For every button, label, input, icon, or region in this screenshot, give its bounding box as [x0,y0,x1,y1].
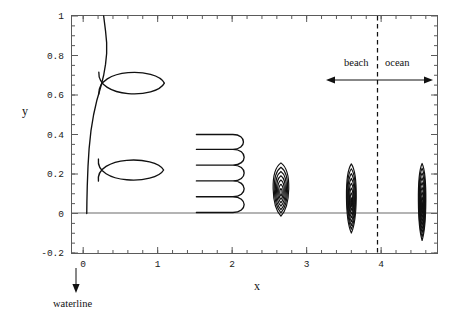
curve-nested-loops-2-ring [350,193,352,210]
y-axis-label: y [22,104,28,118]
beach-ocean-annotation: beach ocean [326,57,433,84]
ocean-arrow-head [424,76,433,83]
x-axis-label: x [254,279,260,293]
y-tick-label: 0.8 [47,51,64,62]
curve-waterline-asymptote [87,16,107,214]
y-tick-label: 1 [58,11,64,22]
beach-label: beach [344,57,369,68]
major-tick-marks [72,16,437,253]
curve-loop-upper [99,72,165,94]
x-tick-label: 0 [80,259,86,270]
x-tick-label: 3 [304,259,310,270]
x-tick-label: 4 [378,259,384,270]
x-tick-label: 2 [229,259,235,270]
figure-container: -0.200.20.40.60.81 01234 y x waterline b… [0,0,460,313]
data-curves [87,16,426,240]
y-tick-label: -0.2 [41,248,64,259]
y-tick-label: 0.2 [47,169,64,180]
x-tick-label: 1 [155,259,161,270]
curve-meander-cluster [196,135,244,213]
x-axis-tick-labels: 01234 [80,259,384,270]
waterline-annotation: waterline [53,268,92,309]
ocean-label: ocean [385,57,410,68]
plot-frame [72,16,438,254]
y-tick-label: 0 [58,209,64,220]
waterline-arrow-head [72,284,79,293]
minor-tick-marks [72,16,437,253]
waterline-label: waterline [53,298,92,309]
beach-arrow-head [326,76,335,83]
curve-nested-loops-1-ring [280,189,282,197]
curve-loop-lower [98,159,163,181]
y-tick-label: 0.6 [47,90,64,101]
curve-nested-loops-2-ring [351,198,352,207]
scientific-plot: -0.200.20.40.60.81 01234 y x waterline b… [0,0,460,313]
y-tick-label: 0.4 [47,130,64,141]
y-axis-tick-labels: -0.200.20.40.60.81 [41,11,64,259]
